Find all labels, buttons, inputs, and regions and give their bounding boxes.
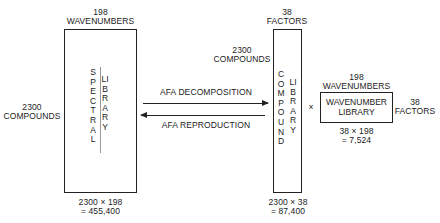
wavenumber-top-label: 198 WAVENUMBERS bbox=[320, 73, 393, 91]
spectral-size-label: 2300 × 198 = 455,400 bbox=[64, 198, 137, 216]
compound-left-unit: COMPOUNDS bbox=[212, 55, 272, 64]
wavenumber-right-unit: FACTORS bbox=[394, 107, 436, 116]
compound-top-label: 38 FACTORS bbox=[262, 8, 312, 26]
reproduction-arrow bbox=[141, 115, 265, 116]
compound-title-word2: LIBRARY bbox=[289, 78, 297, 136]
wavenumber-right-label: 38 FACTORS bbox=[394, 98, 436, 116]
spectral-size-result: = 455,400 bbox=[64, 207, 137, 216]
multiply-operator: × bbox=[306, 103, 316, 112]
spectral-title-word2: LIBRARY bbox=[101, 75, 109, 133]
wavenumber-library-box: WAVENUMBER LIBRARY bbox=[320, 92, 393, 123]
spectral-left-unit: COMPOUNDS bbox=[2, 112, 62, 121]
spectral-title-word1: SPECTRAL bbox=[89, 68, 97, 145]
afa-decomposition-label: AFA DECOMPOSITION bbox=[150, 88, 262, 97]
afa-diagram: 198 WAVENUMBERS 2300 COMPOUNDS SPECTRAL … bbox=[0, 0, 440, 223]
compound-title-word1: COMPOUND bbox=[277, 70, 285, 147]
spectral-top-label: 198 WAVENUMBERS bbox=[64, 8, 137, 26]
wavenumber-title-line2: LIBRARY bbox=[321, 107, 392, 117]
afa-reproduction-label: AFA REPRODUCTION bbox=[150, 121, 262, 130]
wavenumber-size-label: 38 × 198 = 7,524 bbox=[320, 127, 393, 145]
wavenumber-top-unit: WAVENUMBERS bbox=[320, 82, 393, 91]
spectral-top-unit: WAVENUMBERS bbox=[64, 17, 137, 26]
wavenumber-size-result: = 7,524 bbox=[320, 136, 393, 145]
wavenumber-library-title: WAVENUMBER LIBRARY bbox=[321, 97, 392, 117]
spectral-left-label: 2300 COMPOUNDS bbox=[2, 103, 62, 121]
decomposition-arrow bbox=[143, 103, 268, 104]
wavenumber-title-line1: WAVENUMBER bbox=[321, 97, 392, 107]
compound-size-label: 2300 × 38 = 87,400 bbox=[258, 198, 318, 216]
compound-top-unit: FACTORS bbox=[262, 17, 312, 26]
compound-size-result: = 87,400 bbox=[258, 207, 318, 216]
compound-left-label: 2300 COMPOUNDS bbox=[212, 46, 272, 64]
